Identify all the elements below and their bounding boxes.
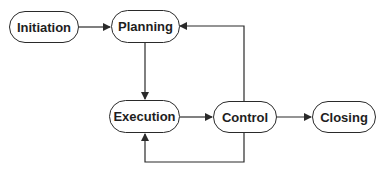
edge-control-execution (145, 133, 244, 162)
node-control: Control (213, 101, 277, 133)
node-execution-label: Execution (113, 109, 175, 124)
node-control-label: Control (222, 110, 268, 125)
node-planning: Planning (111, 10, 180, 43)
node-closing: Closing (312, 101, 376, 133)
node-initiation: Initiation (9, 11, 79, 43)
edge-control-planning (180, 26, 244, 101)
node-closing-label: Closing (320, 110, 368, 125)
node-initiation-label: Initiation (17, 20, 71, 35)
node-execution: Execution (109, 100, 180, 133)
node-planning-label: Planning (118, 19, 173, 34)
